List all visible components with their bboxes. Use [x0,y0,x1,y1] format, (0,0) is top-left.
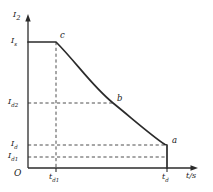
y-axis-arrow-icon [25,14,30,22]
y-tick-label-id1-sub: d1 [11,156,18,162]
x-axis-arrow-icon [191,165,199,170]
point-label-b: b [117,94,122,103]
y-tick-label-id-sub: d [14,144,18,150]
x-tick-label-td-sub: d [165,177,169,183]
current-decay-curve [28,42,167,168]
y-tick-label-is: Is [11,37,17,47]
x-tick-label-td1-sub: d1 [52,177,59,183]
plot-area [0,0,213,192]
x-tick-label-td: td [162,173,169,183]
y-axis-label: I2 [13,11,20,21]
y-tick-label-id: Id [11,140,18,150]
y-tick-label-id2-sub: d2 [11,102,18,108]
current-decay-figure: I2 Is Id2 Id Id1 td1 td t/s O c b a [0,0,213,192]
x-tick-label-td1: td1 [49,173,59,183]
y-axis-label-sub: 2 [16,14,20,22]
y-tick-label-id1: Id1 [8,152,18,162]
y-tick-label-id2: Id2 [8,98,18,108]
origin-label: O [14,169,21,178]
y-tick-label-is-sub: s [14,41,17,47]
x-axis-label: t/s [186,172,196,180]
point-label-a: a [172,136,177,145]
point-label-c: c [60,31,65,40]
